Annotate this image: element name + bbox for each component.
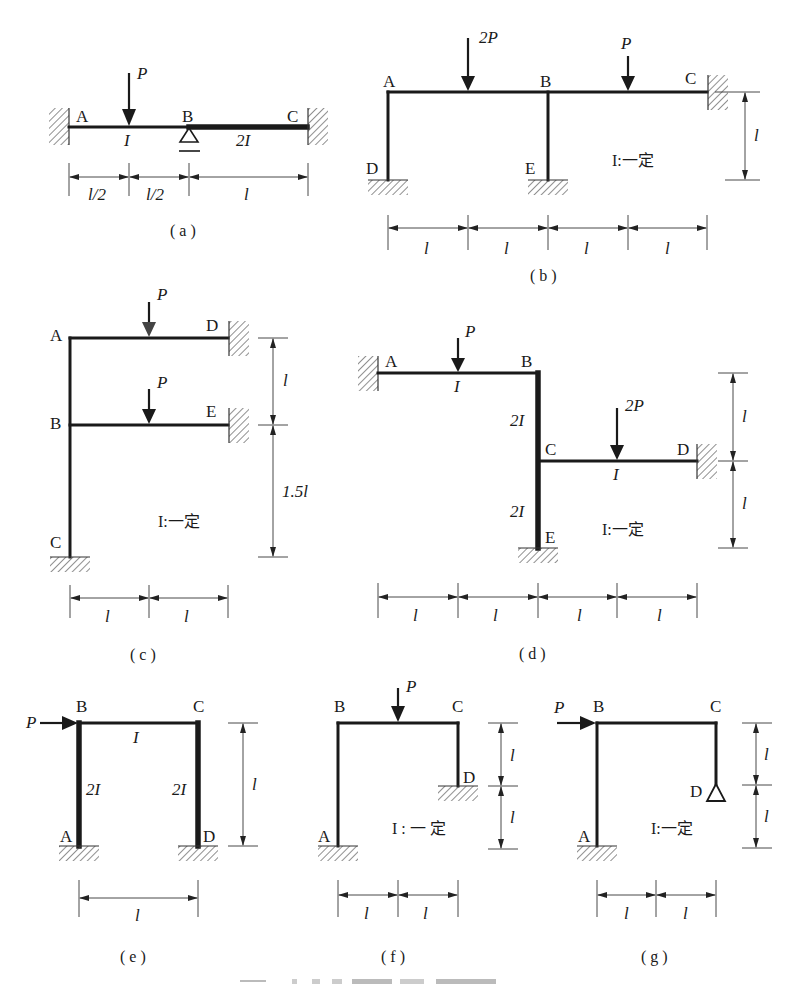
subfigure-c: P P A B C D E I:一定 l 1.5l l l ( c ) — [50, 285, 308, 664]
node-label: A — [578, 827, 591, 846]
node-label: B — [540, 72, 551, 91]
node-label: B — [521, 352, 532, 371]
dimension-label: l — [510, 808, 515, 827]
constant-note: I : 一 定 — [392, 820, 446, 837]
node-label: A — [60, 827, 73, 846]
subfigure-caption: ( e ) — [120, 948, 146, 966]
load-arrow-icon — [621, 76, 635, 91]
fixed-support-icon — [318, 846, 358, 861]
dimension-label: 1.5l — [282, 482, 308, 501]
member-property: I — [612, 465, 620, 484]
load-arrow-icon — [142, 409, 156, 424]
dimension-label: l — [510, 746, 515, 765]
member-property: 2I — [172, 780, 188, 799]
load-arrow-icon — [610, 445, 624, 460]
fixed-support-icon — [708, 75, 728, 110]
subfigure-b: 2P P A B C D E I:一定 l l l l l ( b ) — [366, 28, 760, 285]
dimension-label: l/2 — [88, 185, 106, 204]
fixed-support-icon — [577, 846, 617, 861]
node-label: A — [76, 107, 89, 126]
dimension-label: l — [283, 371, 288, 390]
load-arrow-icon — [391, 706, 405, 722]
figure-caption-cropped — [240, 976, 560, 988]
dimension-label: l — [624, 904, 629, 923]
fixed-support-icon — [178, 846, 218, 861]
subfigure-f: P B C A D I : 一 定 l l l l ( f ) — [318, 677, 518, 966]
dimension-label: l — [504, 239, 509, 258]
fixed-support-icon — [528, 180, 568, 195]
dimension-label: l — [657, 606, 662, 625]
subfigure-g: P B C A D I:一定 l l l l ( g ) — [553, 697, 772, 966]
dimension-label: l — [764, 745, 769, 764]
member-property: 2I — [510, 502, 526, 521]
subfigure-caption: ( a ) — [170, 222, 196, 240]
fixed-support-icon — [49, 108, 69, 145]
dimension-label: l — [764, 807, 769, 826]
node-label: D — [463, 768, 475, 787]
node-label: E — [206, 402, 216, 421]
dimension-label: l — [252, 775, 257, 794]
fixed-support-icon — [50, 557, 90, 572]
dimension-label: l — [577, 606, 582, 625]
node-label: C — [452, 697, 463, 716]
load-label: P — [405, 677, 416, 696]
node-label: D — [206, 316, 218, 335]
load-label: P — [25, 713, 36, 732]
load-label: P — [620, 34, 631, 53]
pin-support-icon — [707, 784, 725, 801]
node-label: D — [690, 782, 702, 801]
member-property: I — [123, 131, 131, 150]
dimension-label: l — [742, 494, 747, 513]
dimension-label: l — [424, 239, 429, 258]
fixed-support-icon — [308, 108, 328, 145]
fixed-support-icon — [518, 548, 558, 563]
load-arrow-icon — [580, 716, 596, 730]
fixed-support-icon — [229, 408, 249, 443]
node-label: B — [182, 107, 193, 126]
fixed-support-icon — [59, 846, 99, 861]
dimension-label: l — [754, 126, 759, 145]
load-label: P — [156, 373, 167, 392]
node-label: B — [50, 414, 61, 433]
load-label: 2P — [479, 28, 498, 47]
load-label: P — [464, 322, 475, 341]
node-label: B — [76, 697, 87, 716]
node-label: B — [593, 697, 604, 716]
node-label: A — [385, 352, 398, 371]
node-label: C — [685, 69, 696, 88]
dimension-label: l — [665, 239, 670, 258]
node-label: C — [193, 697, 204, 716]
structural-diagrams: P A B C I 2I l/2 l/2 l ( a ) 2 — [0, 0, 796, 988]
roller-support-icon — [180, 128, 198, 142]
node-label: E — [545, 528, 555, 547]
fixed-support-icon — [229, 321, 249, 356]
dimension-label: l — [244, 185, 249, 204]
node-label: B — [334, 697, 345, 716]
load-arrow-icon — [461, 76, 475, 91]
node-label: A — [383, 72, 396, 91]
load-arrow-icon — [451, 358, 465, 372]
node-label: C — [50, 533, 61, 552]
fixed-support-icon — [368, 180, 408, 195]
member-property: I — [453, 377, 461, 396]
subfigure-caption: ( b ) — [530, 267, 557, 285]
dimension-label: l — [413, 606, 418, 625]
node-label: E — [525, 159, 535, 178]
node-label: D — [203, 827, 215, 846]
node-label: C — [287, 107, 298, 126]
node-label: C — [710, 697, 721, 716]
node-label: C — [545, 440, 556, 459]
constant-note: I:一定 — [158, 513, 200, 530]
dimension-label: l — [584, 239, 589, 258]
load-label: P — [553, 698, 564, 717]
node-label: A — [318, 827, 331, 846]
member-property: 2I — [236, 131, 252, 150]
dimension-label: l — [364, 904, 369, 923]
subfigure-a: P A B C I 2I l/2 l/2 l ( a ) — [49, 64, 328, 240]
dimension-label: l/2 — [146, 185, 164, 204]
load-arrow-icon — [142, 322, 156, 337]
member-property: I — [132, 728, 140, 747]
fixed-support-icon — [438, 786, 478, 801]
constant-note: I:一定 — [651, 820, 693, 837]
fixed-support-icon — [697, 444, 717, 479]
